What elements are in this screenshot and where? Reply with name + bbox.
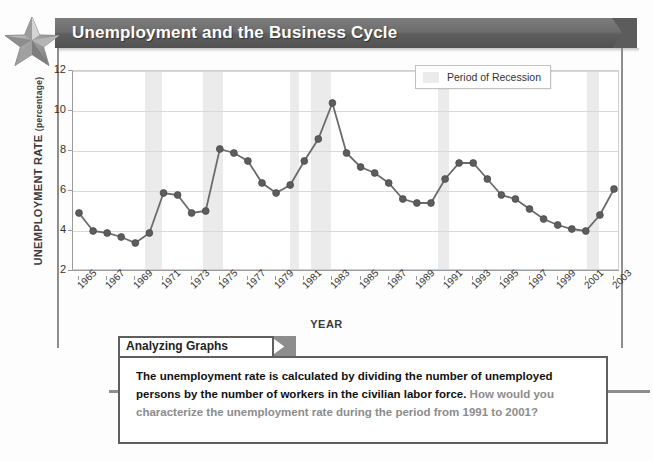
data-point — [287, 182, 294, 189]
data-point — [512, 196, 519, 203]
y-tick-mark — [68, 230, 72, 231]
page-root: Unemployment and the Business Cycle UNEM… — [0, 0, 653, 461]
legend-label-recession: Period of Recession — [447, 71, 541, 83]
data-point — [216, 146, 223, 153]
y-tick-mark — [68, 70, 72, 71]
y-tick-label: 12 — [42, 63, 66, 75]
data-point — [611, 186, 618, 193]
data-point — [456, 160, 463, 167]
x-axis-title: YEAR — [0, 318, 653, 330]
data-point — [554, 222, 561, 229]
data-point — [470, 160, 477, 167]
page-title: Unemployment and the Business Cycle — [72, 23, 397, 43]
data-point — [118, 234, 125, 241]
data-point — [245, 158, 252, 165]
data-point — [540, 216, 547, 223]
data-point — [343, 150, 350, 157]
y-tick-mark — [68, 190, 72, 191]
callout-body: The unemployment rate is calculated by d… — [118, 356, 608, 444]
data-point — [357, 164, 364, 171]
data-point — [188, 210, 195, 217]
chart: UNEMPLOYMENT RATE (percentage) 24681012 … — [0, 55, 653, 335]
data-point — [202, 208, 209, 215]
y-tick-mark — [68, 150, 72, 151]
data-point — [414, 200, 421, 207]
callout-text: The unemployment rate is calculated by d… — [136, 368, 592, 421]
title-banner: Unemployment and the Business Cycle — [0, 10, 653, 54]
data-point — [146, 230, 153, 237]
data-series — [73, 71, 620, 271]
callout-rule-left — [109, 390, 118, 393]
ribbon-shadow — [57, 48, 639, 52]
y-tick-label: 4 — [42, 223, 66, 235]
callout-tab-label: Analyzing Graphs — [126, 339, 228, 353]
data-point — [160, 190, 167, 197]
legend-swatch-recession — [423, 72, 439, 83]
y-tick-label: 6 — [42, 183, 66, 195]
plot-area — [72, 70, 619, 270]
data-point — [484, 176, 491, 183]
y-tick-mark — [68, 110, 72, 111]
data-point — [273, 190, 280, 197]
data-point — [259, 180, 266, 187]
data-point — [428, 200, 435, 207]
data-point — [498, 192, 505, 199]
data-point — [76, 210, 83, 217]
series-line — [79, 103, 614, 243]
data-point — [315, 136, 322, 143]
data-point — [301, 158, 308, 165]
data-point — [568, 226, 575, 233]
y-tick-label: 2 — [42, 263, 66, 275]
data-point — [90, 228, 97, 235]
data-point — [582, 228, 589, 235]
y-tick-label: 8 — [42, 143, 66, 155]
y-tick-label: 10 — [42, 103, 66, 115]
legend: Period of Recession — [415, 65, 551, 89]
data-point — [231, 150, 238, 157]
data-point — [371, 170, 378, 177]
data-point — [442, 176, 449, 183]
data-point — [597, 212, 604, 219]
y-axis-title: UNEMPLOYMENT RATE (percentage) — [32, 61, 44, 281]
data-point — [399, 196, 406, 203]
analyzing-graphs-callout: Analyzing Graphs The unemployment rate i… — [118, 336, 608, 444]
data-point — [132, 240, 139, 247]
data-point — [385, 180, 392, 187]
data-point — [104, 230, 111, 237]
callout-rule-right — [608, 390, 650, 393]
data-point — [329, 100, 336, 107]
data-point — [174, 192, 181, 199]
data-point — [526, 206, 533, 213]
